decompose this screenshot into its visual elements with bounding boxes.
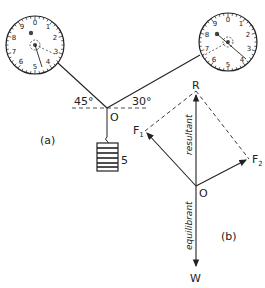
dial-num-4: 4 [46, 58, 51, 66]
dial-num-5: 5 [33, 63, 37, 71]
part-b-label: (b) [221, 230, 237, 243]
part-a: 45° 30° O 5 (a) [40, 55, 200, 171]
right-string [107, 55, 200, 108]
force-f2-arrow [196, 160, 246, 186]
parallelogram-edge [196, 91, 249, 159]
part-a-label: (a) [40, 134, 55, 147]
dial-num-9: 9 [213, 20, 217, 28]
angle-45-label: 45° [74, 95, 94, 108]
force-f1-label: F1 [133, 124, 144, 139]
dial-pivot-icon [29, 31, 33, 35]
left-spring-scale: 0 1 2 3 4 5 6 7 8 9 [6, 16, 64, 74]
dial-num-3: 3 [54, 48, 58, 56]
dial-num-8: 8 [12, 34, 16, 42]
force-f2-label: F2 [252, 153, 263, 168]
dial-num-0: 0 [33, 19, 37, 27]
dial-num-8: 8 [205, 31, 209, 39]
point-r-label: R [192, 79, 200, 92]
equilibrant-label: equilibrant [184, 201, 194, 250]
weight-w-label: W [190, 272, 201, 285]
force-diagram: 0 1 2 3 4 5 6 7 8 9 0 1 2 3 4 5 6 7 8 9 [0, 0, 265, 288]
dial-num-1: 1 [239, 20, 243, 28]
point-o-label: O [199, 187, 208, 200]
dial-num-2: 2 [246, 31, 250, 39]
part-b: R F1 F2 O W (b) resultant equilibrant [133, 79, 263, 285]
dial-num-7: 7 [205, 45, 209, 53]
dial-num-3: 3 [247, 45, 251, 53]
dial-num-9: 9 [20, 23, 24, 31]
dial-num-2: 2 [53, 34, 57, 42]
angle-30-label: 30° [132, 95, 152, 108]
weight-value-label: 5 [121, 154, 128, 167]
point-o-label: O [110, 111, 119, 124]
dial-num-7: 7 [12, 48, 16, 56]
dial-num-6: 6 [19, 58, 24, 66]
dial-num-1: 1 [46, 23, 50, 31]
weight-block [97, 143, 118, 171]
right-spring-scale: 0 1 2 3 4 5 6 7 8 9 [199, 13, 257, 71]
dial-num-0: 0 [226, 16, 230, 24]
resultant-label: resultant [184, 114, 194, 155]
